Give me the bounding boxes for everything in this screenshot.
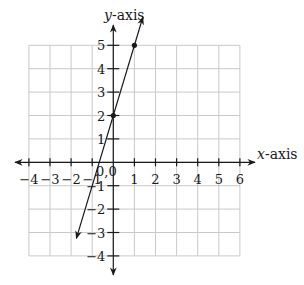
data-point [111,113,116,118]
y-tick-label: −4 [86,249,105,264]
x-axis-label: x-axis [257,146,298,162]
x-tick-label: 5 [215,172,223,187]
coordinate-plane: −4−3−2−112345654321−1−2−3−4 x-axis y-axi… [0,0,304,285]
x-tick-label: −2 [62,172,81,187]
x-tick-label: 6 [236,172,244,187]
x-tick-label: −4 [19,172,38,187]
data-series [76,17,142,238]
y-tick-label: 2 [97,109,105,124]
y-tick-label: 3 [97,85,105,100]
x-tick-label: 3 [172,172,180,187]
x-tick-label: 1 [130,172,138,187]
y-tick-label: −2 [86,202,105,217]
data-point [132,43,137,48]
x-tick-label: 2 [151,172,159,187]
y-axis-label: y-axis [103,7,145,23]
origin-label: 0,0 [96,164,117,179]
grid-lines [29,45,240,256]
y-tick-label: −1 [86,179,105,194]
tick-labels: −4−3−2−112345654321−1−2−3−4 [19,38,244,264]
y-tick-label: 5 [97,38,105,53]
x-tick-label: 4 [194,172,202,187]
y-tick-label: −3 [86,226,105,241]
x-tick-label: −3 [40,172,59,187]
line-series [76,17,142,238]
y-tick-label: 4 [97,62,105,77]
